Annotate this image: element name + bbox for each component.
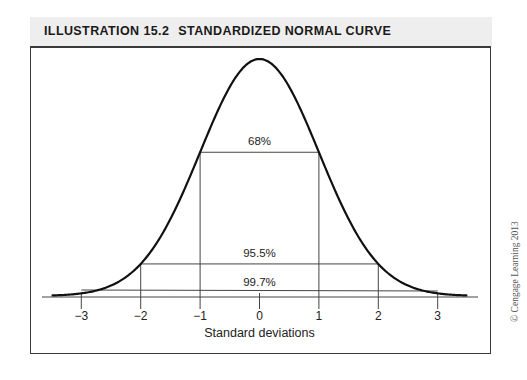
interval-label: 95.5% bbox=[243, 247, 276, 259]
x-tick-label: −2 bbox=[134, 309, 148, 323]
x-tick-label: 1 bbox=[316, 309, 323, 323]
x-axis-label: Standard deviations bbox=[204, 326, 315, 340]
x-tick-label: 2 bbox=[375, 309, 382, 323]
copyright-notice: © Cengage Learning 2013 bbox=[510, 221, 520, 322]
x-tick-label: 0 bbox=[256, 309, 263, 323]
normal-curve-chart: 68%95.5%99.7%−3−2−10123Standard deviatio… bbox=[0, 0, 527, 380]
interval-label: 99.7% bbox=[243, 276, 276, 288]
normal-curve bbox=[52, 59, 468, 295]
x-tick-label: −1 bbox=[193, 309, 207, 323]
x-tick-label: −3 bbox=[74, 309, 88, 323]
interval-span-line bbox=[81, 290, 437, 291]
x-tick-label: 3 bbox=[434, 309, 441, 323]
interval-label: 68% bbox=[248, 135, 271, 147]
